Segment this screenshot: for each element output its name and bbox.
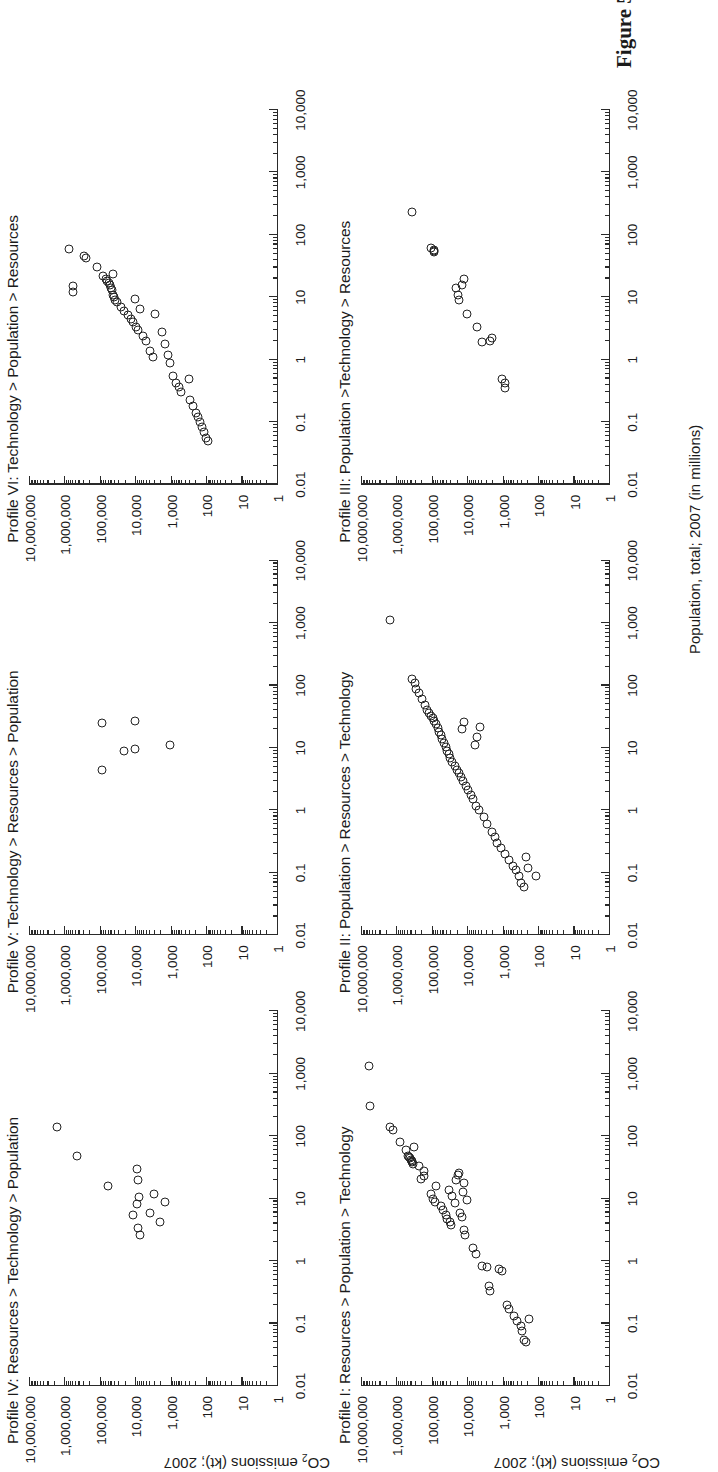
y-tick-minor <box>575 480 576 485</box>
x-tick-major <box>269 171 278 172</box>
y-tick-minor <box>266 480 267 485</box>
y-tick-minor <box>575 930 576 935</box>
data-point <box>450 1199 459 1208</box>
x-tick-minor <box>273 703 278 704</box>
x-tick-major <box>269 1260 278 1261</box>
y-tick-minor <box>375 480 376 485</box>
y-tick-minor <box>189 480 190 485</box>
x-tick-minor <box>605 465 610 466</box>
x-tick-label: 10,000 <box>293 991 308 1032</box>
y-tick-minor <box>440 1381 441 1386</box>
y-tick-minor <box>101 930 102 935</box>
x-tick-label: 0.01 <box>625 472 640 498</box>
data-point <box>462 1196 471 1205</box>
x-tick-label: 1,000 <box>625 156 640 190</box>
y-tick-minor <box>40 1381 41 1386</box>
x-tick-label: 10 <box>293 290 308 305</box>
y-tick-major <box>467 1377 468 1386</box>
data-point <box>532 871 541 880</box>
y-tick-minor <box>78 480 79 485</box>
x-tick-minor <box>273 625 278 626</box>
y-tick-minor <box>247 1381 248 1386</box>
y-tick-minor <box>37 480 38 485</box>
x-tick-minor <box>273 1207 278 1208</box>
x-tick-minor <box>605 1293 610 1294</box>
y-tick-minor <box>415 1381 416 1386</box>
y-tick-minor <box>103 930 104 935</box>
x-tick-minor <box>605 636 610 637</box>
y-tick-label: 10 <box>235 1396 250 1411</box>
y-tick-minor <box>160 930 161 935</box>
x-tick-minor <box>273 112 278 113</box>
y-tick-minor <box>137 1381 138 1386</box>
x-tick-label: 1 <box>625 807 640 815</box>
y-tick-major <box>64 476 65 485</box>
y-tick-minor <box>243 930 244 935</box>
y-tick-minor <box>243 480 244 485</box>
y-tick-minor <box>54 1381 55 1386</box>
panel-profile-3: Profile III: Population >Technology > Re… <box>336 106 664 543</box>
y-tick-minor <box>32 480 33 485</box>
y-tick-minor <box>410 480 411 485</box>
y-tick-minor <box>217 930 218 935</box>
y-tick-minor <box>214 930 215 935</box>
data-point <box>135 1231 144 1240</box>
y-tick-minor <box>105 1381 106 1386</box>
x-tick-minor <box>273 240 278 241</box>
y-tick-minor <box>372 930 373 935</box>
y-tick-major <box>277 926 278 935</box>
x-tick-minor <box>273 115 278 116</box>
y-tick-minor <box>366 930 367 935</box>
y-tick-minor <box>54 930 55 935</box>
y-tick-minor <box>517 480 518 485</box>
x-tick-label: 0.1 <box>293 864 308 883</box>
x-tick-minor <box>273 1116 278 1117</box>
x-tick-minor <box>605 875 610 876</box>
y-tick-minor <box>189 930 190 935</box>
y-axis-label-top: CO2 emissions (kt); 2007 <box>164 1452 330 1472</box>
data-point <box>410 1143 419 1152</box>
y-tick-minor <box>492 1381 493 1386</box>
x-tick-minor <box>273 215 278 216</box>
data-point <box>161 1197 170 1206</box>
data-point <box>389 1125 398 1134</box>
x-tick-minor <box>605 1341 610 1342</box>
y-tick-major <box>100 926 101 935</box>
x-tick-major <box>601 872 610 873</box>
x-tick-label: 1,000 <box>293 156 308 190</box>
y-axis-label-subscript-1: 2 <box>302 1452 308 1463</box>
y-tick-minor <box>437 480 438 485</box>
y-tick-minor <box>260 930 261 935</box>
y-tick-label: 1 <box>603 495 618 503</box>
y-tick-minor <box>410 1381 411 1386</box>
y-tick-minor <box>37 1381 38 1386</box>
x-tick-minor <box>273 1035 278 1036</box>
x-tick-minor <box>273 196 278 197</box>
x-tick-minor <box>273 1160 278 1161</box>
data-point <box>142 337 151 346</box>
y-tick-minor <box>247 480 248 485</box>
x-tick-minor <box>273 573 278 574</box>
data-point <box>460 1178 469 1187</box>
y-tick-minor <box>372 480 373 485</box>
x-tick-minor <box>605 424 610 425</box>
x-tick-minor <box>273 562 278 563</box>
x-tick-major <box>601 1322 610 1323</box>
y-tick-minor <box>579 930 580 935</box>
y-tick-label: 1,000,000 <box>390 1396 405 1456</box>
x-tick-label: 0.1 <box>293 413 308 432</box>
y-tick-minor <box>433 1381 434 1386</box>
x-tick-minor <box>273 340 278 341</box>
x-tick-minor <box>273 1274 278 1275</box>
y-tick-major <box>241 926 242 935</box>
x-tick-minor <box>273 177 278 178</box>
x-tick-major <box>269 809 278 810</box>
data-point <box>97 719 106 728</box>
x-tick-minor <box>605 573 610 574</box>
y-tick-minor <box>176 930 177 935</box>
y-tick-minor <box>540 1381 541 1386</box>
y-tick-minor <box>105 930 106 935</box>
y-tick-minor <box>260 1381 261 1386</box>
x-tick-minor <box>605 362 610 363</box>
y-tick-minor <box>146 480 147 485</box>
